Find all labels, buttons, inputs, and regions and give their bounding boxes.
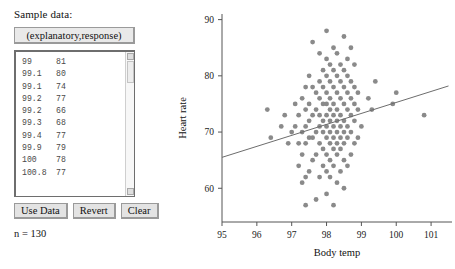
data-point [324,191,329,196]
data-point [282,113,287,118]
data-row-y: 77 [56,93,66,105]
data-point [317,51,322,56]
data-point [310,113,315,118]
data-point [328,130,333,135]
data-point [324,152,329,157]
y-tick-label: 60 [205,184,215,194]
data-point [338,113,343,118]
data-point [324,169,329,174]
data-point [268,135,273,140]
scrollbar-thumb[interactable] [127,61,134,83]
scroll-up-arrow-icon[interactable] [127,53,134,60]
data-point [335,90,340,95]
data-point [324,57,329,62]
data-row-x: 100 [22,154,56,166]
data-point [328,96,333,101]
clear-button[interactable]: Clear [121,203,159,219]
data-point [314,107,319,112]
data-row-x: 99 [22,56,56,68]
data-point [307,73,312,78]
data-point [307,118,312,123]
data-point [303,175,308,180]
data-point [289,130,294,135]
data-row[interactable]: 99.277 [22,93,124,105]
data-point [310,158,315,163]
data-point [352,102,357,107]
data-row-x: 99.1 [22,81,56,93]
data-row[interactable]: 99.174 [22,81,124,93]
data-row[interactable]: 10078 [22,154,124,166]
data-row-y: 77 [56,130,66,142]
data-point [335,152,340,157]
data-point [293,102,298,107]
y-tick-label: 90 [205,15,215,25]
y-axis-title: Heart rate [177,97,188,139]
data-row[interactable]: 99.979 [22,142,124,154]
data-row[interactable]: 99.266 [22,105,124,117]
data-point [314,197,319,202]
data-point [331,85,336,90]
data-point [296,113,301,118]
data-row[interactable]: 9981 [22,56,124,68]
panel-title: Sample data: [14,8,72,20]
data-rows-container: 998199.18099.17499.27799.26699.36899.477… [16,54,124,196]
data-row[interactable]: 100.877 [22,167,124,179]
data-point [342,141,347,146]
data-row-y: 68 [56,117,66,129]
data-point [335,51,340,56]
sample-size-label: n = 130 [14,228,46,239]
use-data-button[interactable]: Use Data [14,203,68,219]
data-point [328,175,333,180]
data-point [331,102,336,107]
data-point [303,141,308,146]
data-point [345,90,350,95]
y-tick-label: 80 [205,71,215,81]
data-point [324,102,329,107]
revert-button[interactable]: Revert [73,203,116,219]
data-row[interactable]: 99.180 [22,68,124,80]
data-point [352,62,357,67]
data-point [349,152,354,157]
data-point [303,107,308,112]
data-row-x: 99.2 [22,105,56,117]
data-point [335,141,340,146]
data-point [331,113,336,118]
data-point [314,152,319,157]
explanatory-response-header-button[interactable]: (explanatory,response) [14,27,135,44]
data-point [300,152,305,157]
data-point [307,169,312,174]
data-point [356,107,361,112]
data-point [352,118,357,123]
data-point [338,96,343,101]
data-point [303,203,308,208]
scroll-down-arrow-icon[interactable] [127,188,134,195]
data-point [328,158,333,163]
data-point [331,68,336,73]
data-point [331,203,336,208]
data-point [310,135,315,140]
data-point [338,124,343,129]
data-point [338,135,343,140]
data-point [345,107,350,112]
x-tick-label: 97 [287,230,297,240]
y-tick-label: 70 [205,127,215,137]
data-point [342,186,347,191]
data-row-y: 79 [56,142,66,154]
data-point [342,85,347,90]
data-point [296,141,301,146]
data-list-scrollbar[interactable] [125,52,134,196]
data-point [296,163,301,168]
data-point [328,62,333,67]
sample-data-listbox[interactable]: 998199.18099.17499.27799.26699.36899.477… [14,50,135,197]
data-point [356,135,361,140]
data-point [303,124,308,129]
data-point [349,45,354,50]
data-point [300,180,305,185]
data-point [342,130,347,135]
data-row[interactable]: 99.477 [22,130,124,142]
data-point [317,175,322,180]
data-row-y: 77 [56,167,66,179]
data-row[interactable]: 99.368 [22,117,124,129]
data-point [321,85,326,90]
data-row-x: 99.1 [22,68,56,80]
